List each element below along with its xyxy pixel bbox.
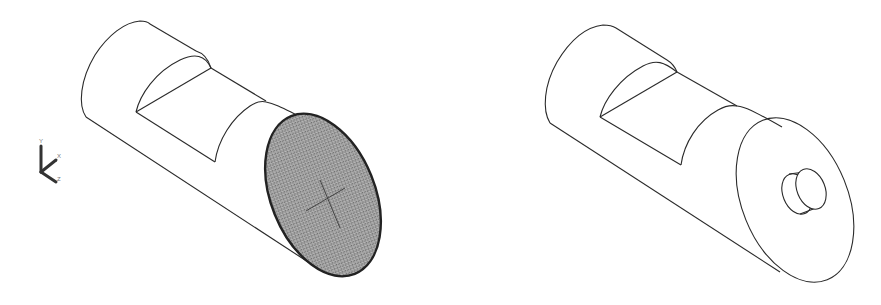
notch-diagonal-edge xyxy=(600,72,677,117)
notch-front-arc xyxy=(215,102,266,162)
notch-front-arc xyxy=(681,106,737,165)
notch-rear-arc xyxy=(600,62,677,117)
notch-diagonal-edge xyxy=(136,68,211,112)
ucs-z-axis xyxy=(41,172,56,182)
notch-top-edge xyxy=(196,51,211,68)
bottom-edge xyxy=(550,123,780,272)
left-end-cap-arc xyxy=(81,21,150,117)
right-end-cap-arc xyxy=(545,25,616,123)
top-edge-rear xyxy=(150,24,196,51)
drawing-canvas: Y X Z xyxy=(0,0,881,305)
ucs-x-axis xyxy=(41,160,56,172)
cylindrical-boss[interactable] xyxy=(776,164,832,218)
notch-back-wall-edge xyxy=(677,72,737,106)
notch-floor-edge xyxy=(600,117,681,165)
ucs-x-label: X xyxy=(57,153,61,159)
shaded-end-face[interactable] xyxy=(243,97,403,294)
left-selected-end-face[interactable] xyxy=(243,97,403,294)
top-edge-front xyxy=(737,106,782,127)
ucs-y-label: Y xyxy=(39,138,43,144)
right-view-cylinder[interactable] xyxy=(545,25,782,272)
top-edge-rear xyxy=(616,28,667,60)
notch-back-wall-edge xyxy=(211,68,266,101)
notch-floor-edge xyxy=(136,112,215,162)
ucs-z-label: Z xyxy=(57,176,61,182)
notch-rear-arc xyxy=(136,56,211,112)
ucs-icon: Y X Z xyxy=(39,138,61,182)
